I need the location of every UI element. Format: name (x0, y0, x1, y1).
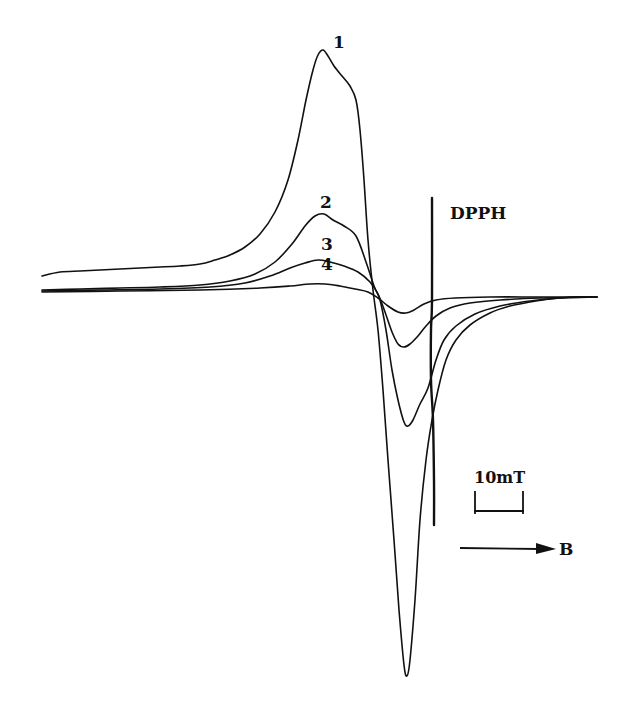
scale-bar-label: 10mT (474, 470, 525, 486)
curve-4-label: 4 (321, 256, 333, 273)
field-axis-label: B (559, 541, 573, 558)
epr-spectrum-figure: 1 2 3 4 DPPH 10mT B (0, 0, 626, 714)
scale-bar (474, 491, 524, 514)
dpph-reference-label: DPPH (450, 205, 506, 222)
curve-3-label: 3 (321, 236, 333, 253)
field-direction-arrow (460, 543, 556, 554)
spectrum-curves (42, 50, 597, 676)
dpph-reference-line (431, 198, 434, 525)
spectrum-plot (0, 0, 626, 714)
curve-1-label: 1 (333, 34, 345, 51)
spectrum-curve-2 (42, 214, 597, 426)
spectrum-curve-1 (42, 50, 597, 676)
curve-2-label: 2 (320, 194, 332, 211)
